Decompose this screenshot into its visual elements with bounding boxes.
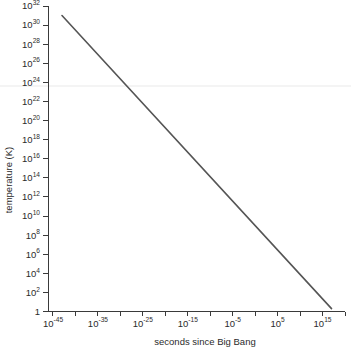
y-tick-label: 1032 [22,0,40,11]
y-tick-label: 108 [26,228,41,240]
y-tick-label: 1014 [22,171,40,183]
x-tick-label: 10-5 [224,316,241,328]
y-tick-label: 1022 [22,95,40,107]
axis-spines [49,6,346,312]
y-tick-label: 1026 [22,56,40,68]
y-tick-label: 104 [26,267,41,279]
x-axis-ticks [53,312,345,317]
y-axis-ticks [43,6,49,312]
log-log-temperature-plot: 1102104106108101010121014101610181020102… [0,0,351,351]
y-tick-label: 1030 [22,18,40,30]
y-tick-label: 1028 [22,37,40,49]
x-tick-label: 10-25 [133,316,153,328]
x-tick-label: 105 [270,316,285,328]
chart-figure: 1102104106108101010121014101610181020102… [0,0,351,351]
y-tick-label: 102 [26,286,41,298]
x-tick-label: 1015 [314,316,332,328]
x-tick-label: 10-35 [88,316,108,328]
data-series-group [62,16,332,309]
y-axis-title: temperature (K) [3,147,14,214]
x-tick-label: 10-15 [178,316,198,328]
x-axis-tick-labels: 10-4510-3510-2510-1510-51051015 [43,316,332,328]
y-tick-label: 1012 [22,190,40,202]
y-tick-label: 1016 [22,152,40,164]
y-tick-label: 1018 [22,133,40,145]
y-tick-label: 1020 [22,114,40,126]
y-tick-label: 106 [26,247,41,259]
x-axis-title: seconds since Big Bang [154,336,255,347]
y-tick-label: 1010 [22,209,40,221]
x-tick-label: 10-45 [43,316,63,328]
y-tick-label: 1 [35,306,40,317]
data-series-line [62,16,332,309]
y-axis-tick-labels: 1102104106108101010121014101610181020102… [22,0,40,317]
